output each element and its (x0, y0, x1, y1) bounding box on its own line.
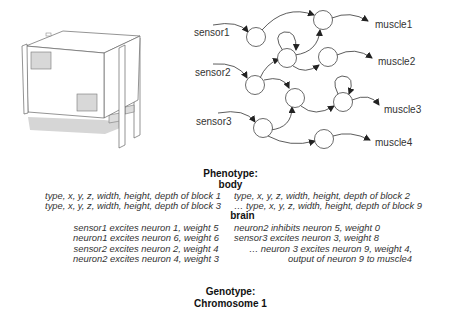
neuron-muscle2 (319, 48, 338, 67)
brain-line: sensor3 excites neuron 3, weight 8 (234, 232, 379, 243)
neuron-6 (314, 11, 333, 30)
muscle3-label: muscle3 (384, 104, 421, 115)
figure: sensor1 sensor2 sensor3 muscle1 muscle2 … (0, 0, 461, 165)
neuron-2 (246, 76, 265, 95)
neuron-self-loop-a (278, 49, 297, 68)
sensor2-label: sensor2 (195, 67, 231, 78)
neuron-4 (286, 89, 305, 108)
brain-line: output of neuron 9 to muscle4 (288, 253, 412, 264)
muscle2-label: muscle2 (378, 56, 415, 67)
phenotype-title: Phenotype: (0, 168, 461, 179)
chromosome-title: Chromosome 1 (0, 298, 461, 309)
brain-line: neuron2 excites neuron 4, weight 3 (56, 253, 236, 264)
sensor1-label: sensor1 (194, 27, 230, 38)
neuron-9 (315, 130, 334, 149)
brain-line: neuron1 excites neuron 6, weight 6 (56, 232, 236, 243)
muscle4-label: muscle4 (375, 137, 412, 148)
sensor3-label: sensor3 (196, 116, 232, 127)
neuron-1 (247, 28, 266, 47)
neuron-3 (254, 119, 273, 138)
muscle1-label: muscle1 (375, 19, 412, 30)
body-title: body (0, 179, 461, 190)
brain-title: brain (12, 210, 461, 221)
neuron-self-loop-b (334, 93, 353, 112)
genotype-title: Genotype: (0, 286, 461, 297)
